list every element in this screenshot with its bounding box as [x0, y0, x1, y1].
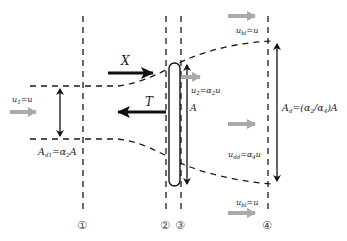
station-2-label: ②: [160, 219, 170, 232]
stream-tube-lower: [30, 139, 272, 184]
velocity-u1-label: u1=u: [12, 95, 33, 105]
station-4-label: ④: [262, 219, 272, 232]
velocity-u4-mid-label: udd=α4u: [228, 150, 261, 160]
disc-area-label: A: [189, 102, 197, 113]
velocity-u4-top-label: ubl=u: [236, 26, 258, 36]
area-4-label: Ad=(α2/α4)A: [281, 102, 338, 114]
velocity-u2-label: u2=α2u: [191, 86, 220, 96]
force-x-label: X: [120, 54, 130, 68]
actuator-disc-diagram: X T u1=u Ad1=α2A u2=α2u A ubl=u Ad=(α2/α…: [0, 0, 347, 241]
force-t-label: T: [145, 95, 154, 109]
station-3-label: ③: [175, 219, 185, 232]
area-1-label: Ad1=α2A: [37, 146, 77, 158]
station-1-label: ①: [77, 219, 87, 232]
stream-tube-upper: [30, 41, 272, 86]
actuator-disc: [169, 63, 180, 186]
velocity-u4-bottom-label: ubl=u: [236, 198, 258, 208]
